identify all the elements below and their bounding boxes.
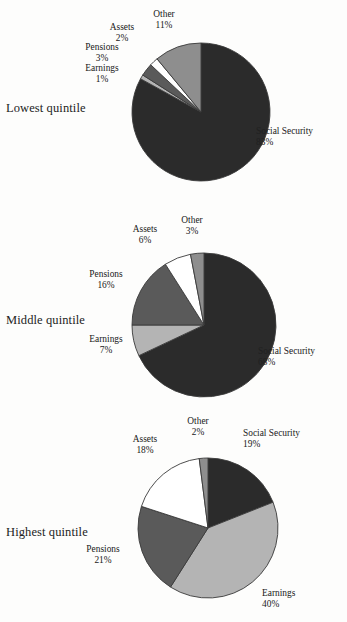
slice-label-percent: 6% xyxy=(113,235,177,246)
slice-label-name: Social Security xyxy=(243,428,300,439)
slice-label-pensions: Pensions3% xyxy=(70,42,134,65)
slice-label-name: Assets xyxy=(113,224,177,235)
slice-label-social-security: Social Security83% xyxy=(256,126,313,149)
slice-label-percent: 21% xyxy=(71,555,135,566)
slice-label-assets: Assets6% xyxy=(113,224,177,247)
pie-panel-middle-quintile: Middle quintile Social Security68%Other3… xyxy=(0,208,347,415)
slice-label-name: Other xyxy=(132,9,196,20)
slice-label-name: Assets xyxy=(90,22,154,33)
slice-label-percent: 19% xyxy=(243,439,300,450)
slice-label-name: Pensions xyxy=(71,544,135,555)
slice-label-earnings: Earnings7% xyxy=(74,334,138,357)
slice-label-pensions: Pensions21% xyxy=(71,544,135,567)
slice-label-earnings: Earnings1% xyxy=(70,63,134,86)
slice-label-assets: Assets18% xyxy=(113,434,177,457)
slice-label-name: Social Security xyxy=(258,346,315,357)
slice-label-pensions: Pensions16% xyxy=(74,269,138,292)
slice-label-name: Earnings xyxy=(74,334,138,345)
slice-label-percent: 7% xyxy=(74,345,138,356)
slice-label-name: Earnings xyxy=(262,588,295,599)
pie-panel-lowest-quintile: Lowest quintile Social Security83%Other1… xyxy=(0,0,347,208)
pie-chart-middle-quintile: Social Security68%Other3%Assets6%Pension… xyxy=(0,208,347,415)
pie-chart-highest-quintile: Social Security19%Other2%Assets18%Pensio… xyxy=(0,415,347,622)
slice-label-name: Pensions xyxy=(74,269,138,280)
slice-label-name: Other xyxy=(166,416,230,427)
pie-panel-highest-quintile: Highest quintile Social Security19%Other… xyxy=(0,415,347,622)
slice-label-percent: 68% xyxy=(258,357,315,368)
pie-chart-lowest-quintile: Social Security83%Other11%Assets2%Pensio… xyxy=(0,0,347,208)
slice-label-percent: 16% xyxy=(74,280,138,291)
slice-label-social-security: Social Security19% xyxy=(243,428,300,451)
slice-label-percent: 83% xyxy=(256,137,313,148)
slice-label-social-security: Social Security68% xyxy=(258,346,315,369)
slice-label-name: Earnings xyxy=(70,63,134,74)
slice-label-name: Assets xyxy=(113,434,177,445)
slice-label-percent: 40% xyxy=(262,599,295,610)
slice-label-earnings: Earnings40% xyxy=(262,588,295,611)
slice-label-percent: 18% xyxy=(113,445,177,456)
slice-label-name: Pensions xyxy=(70,42,134,53)
slice-label-name: Social Security xyxy=(256,126,313,137)
slice-label-percent: 1% xyxy=(70,74,134,85)
